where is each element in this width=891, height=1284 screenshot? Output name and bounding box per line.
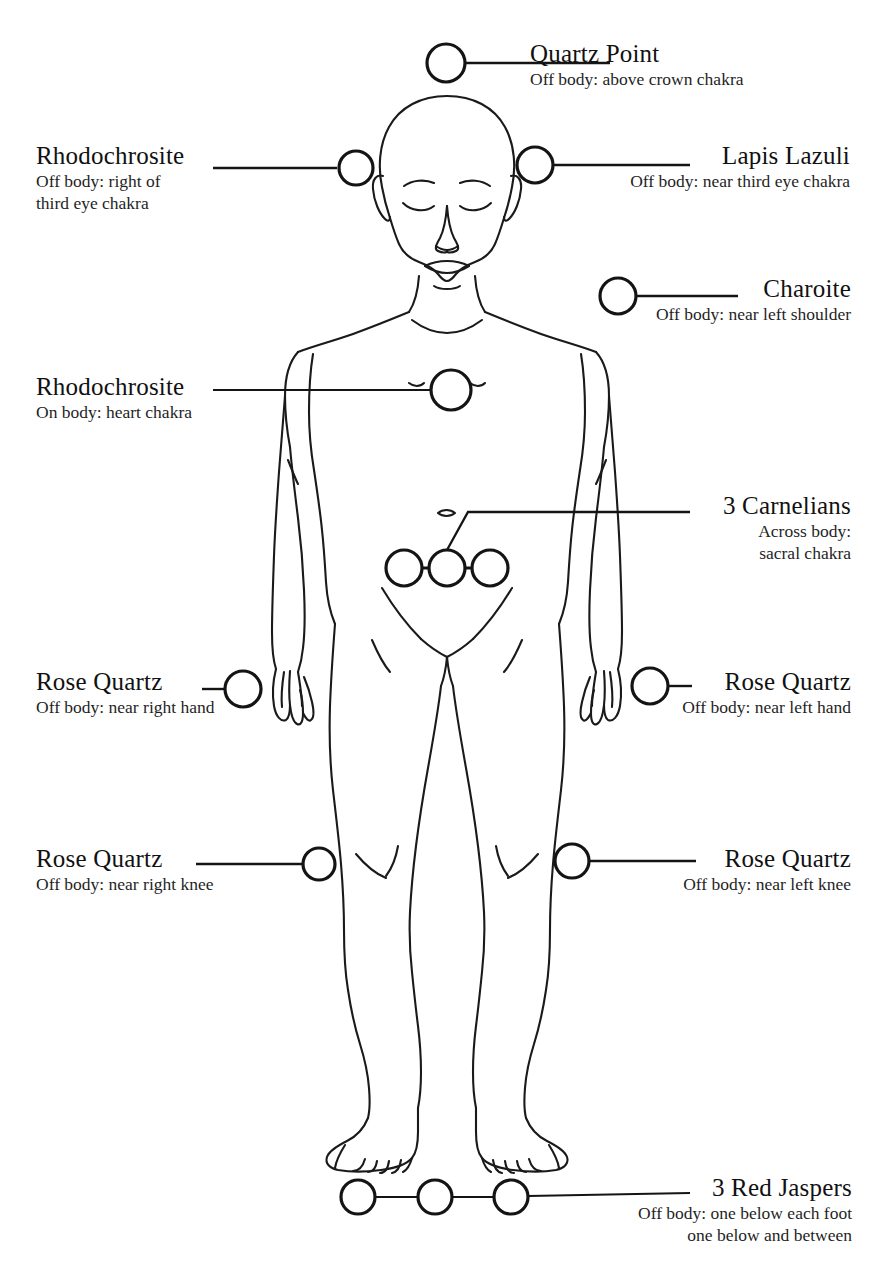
label-note-line1: Across body: [700, 520, 851, 542]
label-3-carnelians: 3 Carnelians Across body: sacral chakra [700, 492, 851, 564]
label-rhodochrosite-heart: Rhodochrosite On body: heart chakra [36, 373, 192, 423]
marker-3-carnelians [386, 512, 690, 586]
label-rose-quartz-right-knee: Rose Quartz Off body: near right knee [36, 845, 214, 895]
label-note: Off body: near left knee [637, 873, 851, 895]
label-note-line1: Off body: right of [36, 170, 184, 192]
label-note: Off body: near third eye chakra [590, 170, 850, 192]
label-title: 3 Red Jaspers [578, 1174, 852, 1202]
label-note: On body: heart chakra [36, 401, 192, 423]
marker-rhodochrosite-head [213, 151, 373, 185]
label-rhodochrosite-head: Rhodochrosite Off body: right of third e… [36, 142, 184, 214]
label-note-line1: Off body: one below each foot [578, 1202, 852, 1224]
label-rose-quartz-left-hand: Rose Quartz Off body: near left hand [637, 668, 851, 718]
label-note: Off body: near left hand [637, 696, 851, 718]
label-lapis-lazuli: Lapis Lazuli Off body: near third eye ch… [590, 142, 850, 192]
label-note-line2: sacral chakra [700, 542, 851, 564]
label-title: Rose Quartz [36, 845, 214, 873]
label-3-red-jaspers: 3 Red Jaspers Off body: one below each f… [578, 1174, 852, 1246]
label-rose-quartz-left-knee: Rose Quartz Off body: near left knee [637, 845, 851, 895]
label-title: Rhodochrosite [36, 142, 184, 170]
label-title: Rose Quartz [637, 845, 851, 873]
label-note: Off body: near right hand [36, 696, 215, 718]
label-title: Rose Quartz [36, 668, 215, 696]
label-note-line2: one below and between [578, 1224, 852, 1246]
label-note-line2: third eye chakra [36, 192, 184, 214]
label-title: 3 Carnelians [700, 492, 851, 520]
label-title: Lapis Lazuli [590, 142, 850, 170]
label-title: Rose Quartz [637, 668, 851, 696]
label-quartz-point: Quartz Point Off body: above crown chakr… [530, 40, 744, 90]
label-rose-quartz-right-hand: Rose Quartz Off body: near right hand [36, 668, 215, 718]
label-title: Charoite [622, 275, 851, 303]
label-title: Rhodochrosite [36, 373, 192, 401]
label-note: Off body: near left shoulder [622, 303, 851, 325]
crystal-layout-diagram: Quartz Point Off body: above crown chakr… [0, 0, 891, 1284]
label-note: Off body: above crown chakra [530, 68, 744, 90]
marker-rose-quartz-right-knee [196, 848, 335, 880]
marker-rhodochrosite-heart [213, 370, 471, 410]
label-note: Off body: near right knee [36, 873, 214, 895]
label-title: Quartz Point [530, 40, 744, 68]
label-charoite: Charoite Off body: near left shoulder [622, 275, 851, 325]
